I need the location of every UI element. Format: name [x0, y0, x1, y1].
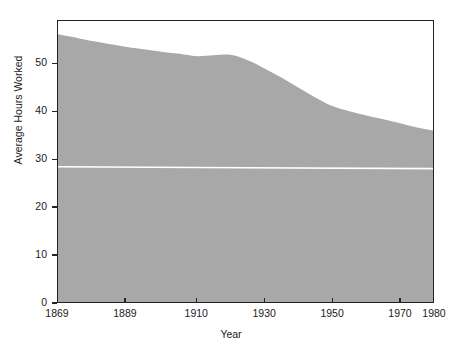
y-tick-mark [52, 206, 57, 207]
y-tick-mark [52, 63, 57, 64]
y-tick-mark [52, 254, 57, 255]
x-tick-label: 1910 [174, 308, 218, 319]
x-tick-mark [124, 298, 125, 303]
y-tick-label: 50 [21, 57, 47, 68]
plot-area [57, 20, 434, 303]
x-tick-mark [399, 298, 400, 303]
x-tick-mark [332, 298, 333, 303]
y-tick-label: 0 [21, 297, 47, 308]
x-tick-mark [264, 298, 265, 303]
x-tick-label: 1869 [35, 308, 79, 319]
y-tick-label: 10 [21, 249, 47, 260]
y-tick-mark [52, 111, 57, 112]
y-tick-label: 30 [21, 153, 47, 164]
y-tick-label: 20 [21, 201, 47, 212]
x-tick-label: 1889 [103, 308, 147, 319]
x-tick-label: 1980 [412, 308, 456, 319]
x-tick-label: 1930 [242, 308, 286, 319]
x-tick-label: 1950 [310, 308, 354, 319]
y-tick-mark [52, 302, 57, 303]
y-tick-mark [52, 159, 57, 160]
y-tick-label: 40 [21, 105, 47, 116]
x-axis-title: Year [0, 328, 462, 340]
x-tick-mark [196, 298, 197, 303]
chart-figure: Average Hours Worked Year 01020304050186… [0, 0, 462, 356]
chart-canvas [58, 21, 433, 302]
